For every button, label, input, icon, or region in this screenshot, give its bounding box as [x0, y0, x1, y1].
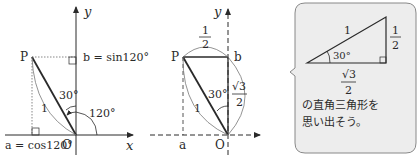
diagram-canvas: y x P O b = sin120° a = cos120° 30° 120°… — [0, 0, 420, 160]
angle-30-label: 30° — [208, 88, 228, 101]
vert-frac-den: 2 — [392, 39, 399, 52]
radius-label: 1 — [41, 102, 48, 115]
x-axis-label: x — [126, 138, 134, 153]
figure-1: y x P O b = sin120° a = cos120° 30° 120°… — [5, 4, 149, 155]
angle-30-label: 30° — [333, 50, 351, 61]
a-cos-label: a = cos120° — [5, 139, 73, 152]
point-p-label: P — [171, 50, 179, 64]
horiz-frac-num: √3 — [342, 68, 356, 81]
angle-30-arc — [66, 106, 76, 110]
top-frac-den: 2 — [202, 38, 209, 51]
hyp-label: 1 — [194, 102, 201, 115]
point-p-label: P — [20, 50, 28, 64]
right-frac-den: 2 — [236, 96, 243, 109]
point-a-label: a — [179, 138, 186, 152]
caption-line-2: 思い出そう。 — [302, 114, 412, 131]
horiz-frac-den: 2 — [345, 84, 352, 97]
figure-2: y P b a O 30° 1 1 2 √3 2 — [150, 4, 260, 155]
origin-label: O — [215, 138, 225, 152]
angle-30-arc — [217, 106, 228, 111]
right-angle-mark-a — [32, 128, 39, 135]
right-angle-mark-b — [69, 57, 76, 64]
bubble-caption: の直角三角形を 思い出そう。 — [302, 97, 412, 131]
hyp-label: 1 — [344, 24, 351, 37]
y-axis-label: y — [83, 4, 92, 19]
angle-120-label: 120° — [89, 107, 116, 120]
top-frac-num: 1 — [202, 24, 209, 37]
right-frac-num: √3 — [232, 80, 246, 93]
b-sin-label: b = sin120° — [83, 51, 149, 64]
caption-line-1: の直角三角形を — [302, 97, 412, 114]
angle-30-label: 30° — [59, 89, 79, 102]
y-axis-label: y — [213, 4, 222, 19]
vert-frac-num: 1 — [392, 24, 399, 37]
point-b-label: b — [234, 50, 242, 64]
